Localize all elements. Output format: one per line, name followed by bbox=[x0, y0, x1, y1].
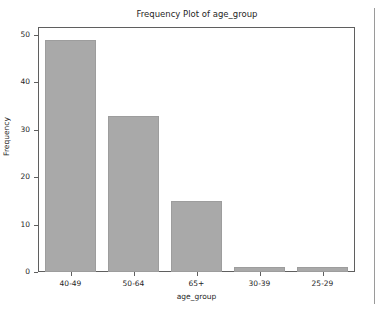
y-tick-mark bbox=[34, 272, 38, 273]
matplotlib-figure: Frequency Plot of age_group Frequency 01… bbox=[0, 0, 383, 314]
panel-divider bbox=[374, 8, 375, 304]
y-tick-label: 10 bbox=[4, 221, 30, 229]
y-tick-mark bbox=[34, 130, 38, 131]
y-tick-mark bbox=[34, 177, 38, 178]
x-tick-label: 30-39 bbox=[230, 279, 290, 288]
x-tick-label: 25-29 bbox=[293, 279, 353, 288]
bars-layer bbox=[39, 28, 354, 272]
y-tick-label: 40 bbox=[4, 78, 30, 86]
y-tick-label: 50 bbox=[4, 31, 30, 39]
x-tick-label: 40-49 bbox=[41, 279, 101, 288]
x-tick-mark bbox=[260, 272, 261, 276]
bar bbox=[108, 116, 158, 273]
x-tick-mark bbox=[134, 272, 135, 276]
x-tick-mark bbox=[323, 272, 324, 276]
y-tick-mark bbox=[34, 35, 38, 36]
x-tick-mark bbox=[71, 272, 72, 276]
y-axis-label: Frequency bbox=[2, 107, 11, 167]
x-tick-label: 50-64 bbox=[104, 279, 164, 288]
y-tick-label: 30 bbox=[4, 126, 30, 134]
plot-area bbox=[39, 28, 354, 272]
bar bbox=[171, 201, 221, 272]
y-tick-mark bbox=[34, 82, 38, 83]
x-tick-label: 65+ bbox=[167, 279, 227, 288]
x-tick-mark bbox=[197, 272, 198, 276]
chart-title: Frequency Plot of age_group bbox=[38, 9, 356, 19]
bar bbox=[45, 40, 95, 272]
y-tick-mark bbox=[34, 225, 38, 226]
y-tick-label: 0 bbox=[4, 268, 30, 276]
x-axis-label: age_group bbox=[38, 292, 355, 301]
y-tick-label: 20 bbox=[4, 173, 30, 181]
